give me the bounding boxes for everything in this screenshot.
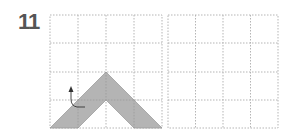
grid-diagram: [0, 0, 294, 139]
right-grid: [168, 15, 278, 128]
